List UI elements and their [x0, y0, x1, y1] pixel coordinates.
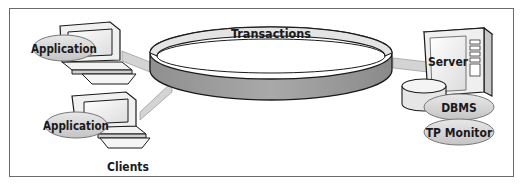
server-label: Server	[428, 55, 469, 69]
dbms-label: DBMS	[441, 101, 477, 115]
tp-monitor-component: TP Monitor	[424, 119, 494, 145]
application-label-2: Application	[43, 119, 109, 133]
connector-server	[393, 58, 428, 72]
dbms-component: DBMS	[424, 94, 494, 120]
client-computer-1: Application	[31, 22, 136, 84]
client-server-diagram: Transactions Application Application Cli…	[0, 0, 526, 190]
drive-bay-icon	[470, 40, 480, 44]
client-computer-2: Application	[43, 92, 150, 148]
ring-label: Transactions	[231, 26, 311, 41]
tp-monitor-label: TP Monitor	[426, 126, 493, 140]
application-label-1: Application	[31, 42, 97, 56]
connector-client2	[140, 82, 172, 120]
transactions-ring: Transactions	[150, 26, 392, 100]
clients-label: Clients	[107, 160, 149, 174]
